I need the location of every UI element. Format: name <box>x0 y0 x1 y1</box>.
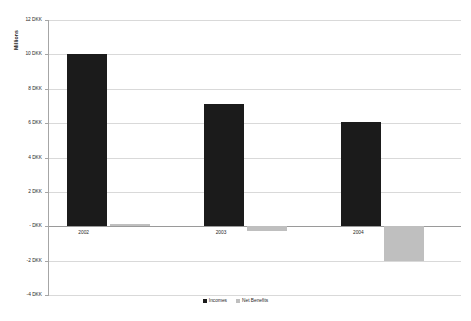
legend-swatch-icon <box>236 299 240 303</box>
y-axis-tick-label: - DKK <box>2 224 42 229</box>
legend-label: Net Benefits <box>242 299 268 304</box>
gridline <box>49 261 461 262</box>
y-axis-tick <box>45 89 49 90</box>
y-axis-tick <box>45 158 49 159</box>
gridline <box>49 89 461 90</box>
gridline <box>49 158 461 159</box>
bar-net-benefits-2004 <box>384 226 424 260</box>
gridline <box>49 54 461 55</box>
y-axis-tick-label: 2 DKK <box>2 189 42 194</box>
y-axis-title: Millions <box>14 30 19 50</box>
y-axis-tick-label: -2 DKK <box>2 258 42 263</box>
y-axis-tick-label: 4 DKK <box>2 155 42 160</box>
legend-item-incomes[interactable]: Incomes <box>203 299 227 304</box>
chart-legend: IncomesNet Benefits <box>0 299 471 304</box>
y-axis-tick-label: 6 DKK <box>2 121 42 126</box>
bar-chart: Millions 12 DKK10 DKK8 DKK6 DKK4 DKK2 DK… <box>0 0 471 321</box>
plot-area <box>48 20 460 295</box>
y-axis-tick <box>45 192 49 193</box>
x-axis-label-2003: 2003 <box>216 231 227 236</box>
y-axis-tick-label: -4 DKK <box>2 293 42 298</box>
y-axis-tick <box>45 261 49 262</box>
y-axis-tick-label: 8 DKK <box>2 86 42 91</box>
legend-swatch-icon <box>203 299 207 303</box>
x-axis-label-2002: 2002 <box>78 231 89 236</box>
y-axis-tick <box>45 226 49 227</box>
y-axis-tick-label: 10 DKK <box>2 52 42 57</box>
y-axis-tick-label: 12 DKK <box>2 18 42 23</box>
gridline <box>49 295 461 296</box>
y-axis-tick <box>45 295 49 296</box>
gridline <box>49 192 461 193</box>
gridline <box>49 20 461 21</box>
y-axis-tick <box>45 20 49 21</box>
gridline <box>49 123 461 124</box>
gridline <box>49 226 461 227</box>
legend-item-net-benefits[interactable]: Net Benefits <box>236 299 268 304</box>
y-axis-tick <box>45 54 49 55</box>
x-axis-label-2004: 2004 <box>353 231 364 236</box>
y-axis-tick <box>45 123 49 124</box>
legend-label: Incomes <box>209 299 227 304</box>
bar-incomes-2002 <box>67 54 107 226</box>
bar-incomes-2004 <box>341 122 381 226</box>
